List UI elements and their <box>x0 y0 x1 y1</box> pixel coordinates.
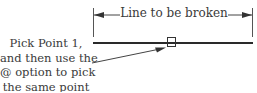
arrowhead-left-icon <box>94 12 104 18</box>
callout-line: the same point <box>0 80 92 93</box>
dimension-label: Line to be broken <box>120 6 228 20</box>
leader-arrowhead-icon <box>155 48 166 53</box>
callout-line: @ option to pick <box>0 65 92 80</box>
leader-line <box>92 49 160 63</box>
arrowhead-right-icon <box>242 12 252 18</box>
callout-line: Pick Point 1, <box>0 36 92 51</box>
callout-text: Pick Point 1, and then use the @ option … <box>0 36 92 92</box>
diagram-canvas: Line to be broken Pick Point 1, and then… <box>0 0 257 92</box>
callout-line: and then use the <box>0 51 92 66</box>
